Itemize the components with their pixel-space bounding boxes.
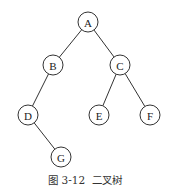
tree-node-D: D [18, 105, 38, 125]
binary-tree-diagram: ABCDEFG [0, 0, 170, 170]
node-label: C [116, 60, 123, 72]
tree-node-A: A [78, 12, 98, 32]
node-label: F [147, 110, 153, 122]
tree-node-B: B [43, 55, 63, 75]
tree-nodes: ABCDEFG [18, 12, 160, 167]
figure-caption: 图 3-12 二叉树 [0, 172, 170, 187]
tree-edges [32, 30, 144, 149]
edge-C-E [103, 74, 116, 106]
node-label: E [96, 110, 103, 122]
edge-D-G [34, 123, 55, 149]
edge-B-D [32, 74, 48, 106]
node-label: G [57, 152, 65, 164]
tree-node-G: G [51, 147, 71, 167]
edge-A-C [94, 30, 114, 57]
edge-A-B [59, 30, 81, 57]
node-label: D [24, 110, 32, 122]
tree-node-E: E [89, 105, 109, 125]
node-label: B [49, 60, 56, 72]
tree-node-F: F [140, 105, 160, 125]
node-label: A [84, 17, 92, 29]
tree-node-C: C [110, 55, 130, 75]
edge-C-F [125, 74, 145, 107]
